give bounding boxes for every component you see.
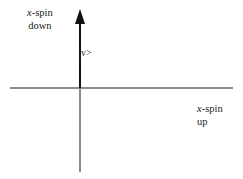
spin-basis-diagram: x-spin down |v> x-spin up — [0, 0, 243, 179]
horizontal-axis — [10, 87, 233, 89]
vertical-axis — [79, 88, 81, 172]
axis-label-spin-down-line1: x-spin — [27, 6, 53, 19]
axis-label-spin-up-line2: up — [197, 115, 223, 128]
axis-label-spin-up-suffix: -spin — [202, 103, 223, 114]
axis-label-spin-down-line2: down — [27, 19, 53, 32]
axis-label-spin-up: x-spin up — [197, 102, 223, 128]
state-vector-ket-label: |v> — [79, 47, 92, 60]
axis-label-spin-down: x-spin down — [27, 6, 53, 32]
axis-label-spin-up-line1: x-spin — [197, 102, 223, 115]
arrow-up-icon — [75, 9, 85, 24]
axis-label-spin-down-suffix: -spin — [32, 7, 53, 18]
